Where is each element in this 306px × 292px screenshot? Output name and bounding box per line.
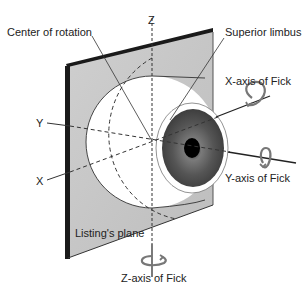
z-axis-of-fick-label: Z-axis of Fick — [121, 272, 186, 284]
x-axis-of-fick-label: X-axis of Fick — [225, 75, 291, 87]
y-axis-of-fick-label: Y-axis of Fick — [225, 172, 290, 184]
axis-x-label: X — [36, 175, 43, 187]
listings-plane-diagram: Z Center of rotation Superior limbus X-a… — [0, 0, 306, 292]
iris — [162, 109, 224, 187]
center-of-rotation-label: Center of rotation — [7, 26, 92, 38]
superior-limbus-label: Superior limbus — [225, 26, 301, 38]
axis-y-label: Y — [36, 117, 43, 129]
listings-plane-label: Listing's plane — [75, 227, 144, 239]
z-rotation-arrow-icon — [142, 255, 166, 265]
axis-z-label: Z — [148, 14, 155, 26]
pupil — [184, 138, 200, 158]
